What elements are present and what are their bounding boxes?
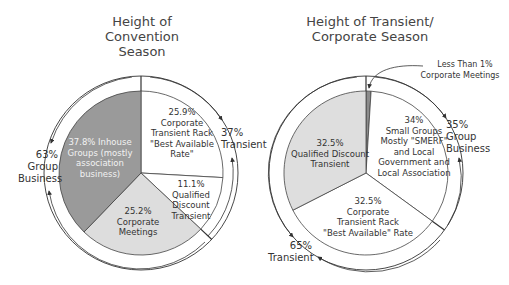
right-transient-label: 65% Transient [268,240,312,264]
line: Groups (mostly [65,148,135,159]
line: Mostly "SMERF" [373,136,455,147]
line: 37.8% Inhouse [65,137,135,148]
line: Less Than 1% [410,59,509,70]
left-slice-qualified-label: 11.1% Qualified Discount Transient [160,179,222,221]
line: Group [446,131,490,143]
left-chart-title: Height of Convention Season [86,14,198,59]
line: "Best Available [142,139,222,150]
pct: 32.5% [318,196,418,207]
line: Meetings [111,227,165,238]
line: and Local [373,147,455,158]
line: Transient [290,159,370,170]
pct: 34% [373,115,455,126]
line: Corporate [318,207,418,218]
line: Corporate Meetings [410,70,509,81]
pct: 63% [18,149,58,161]
line: Corporate [111,217,165,228]
left-slice-inhouse-label: 37.8% Inhouse Groups (mostly association… [65,137,135,179]
line: Government and [373,157,455,168]
line: Business [446,143,490,155]
line: Transient Rack [318,217,418,228]
line: Corporate [142,118,222,129]
left-slice-meetings-label: 25.2% Corporate Meetings [111,206,165,238]
line: Small Groups [373,126,455,137]
pct: 25.9% [142,107,222,118]
right-callout-label: Less Than 1% Corporate Meetings [410,59,509,81]
pct: 35% [446,119,490,131]
right-group-business-label: 35% Group Business [446,119,490,155]
line: Local Association [373,168,455,179]
label: Transient [268,252,312,264]
line: business) [65,169,135,180]
left-title-line2: Convention Season [86,29,198,59]
left-group-business-label: 63% Group Business [18,149,58,185]
line: 11.1% Qualified [160,179,222,200]
pct: 37% [221,127,267,139]
line: Transient Rack [142,128,222,139]
label: Transient [221,139,267,151]
right-title-line2: Corporate Season [300,29,440,44]
line: Business [18,173,58,185]
line: Transient [160,211,222,222]
left-slice-rack-label: 25.9% Corporate Transient Rack "Best Ava… [142,107,222,160]
line: association [65,158,135,169]
line: Group [18,161,58,173]
pct: 32.5% [290,138,370,149]
line: Qualified Discount [290,149,370,160]
line: "Best Available" Rate [318,228,418,239]
right-slice-qualified-label: 32.5% Qualified Discount Transient [290,138,370,170]
pct: 25.2% [111,206,165,217]
right-title-line1: Height of Transient/ [300,14,440,29]
line: Rate" [142,149,222,160]
right-slice-rack-label: 32.5% Corporate Transient Rack "Best Ava… [318,196,418,238]
right-slice-small-groups-label: 34% Small Groups Mostly "SMERF" and Loca… [373,115,455,178]
left-transient-group-label: 37% Transient [221,127,267,151]
left-title-line1: Height of [86,14,198,29]
right-chart-title: Height of Transient/ Corporate Season [300,14,440,44]
pct: 65% [268,240,312,252]
line: Discount [160,200,222,211]
